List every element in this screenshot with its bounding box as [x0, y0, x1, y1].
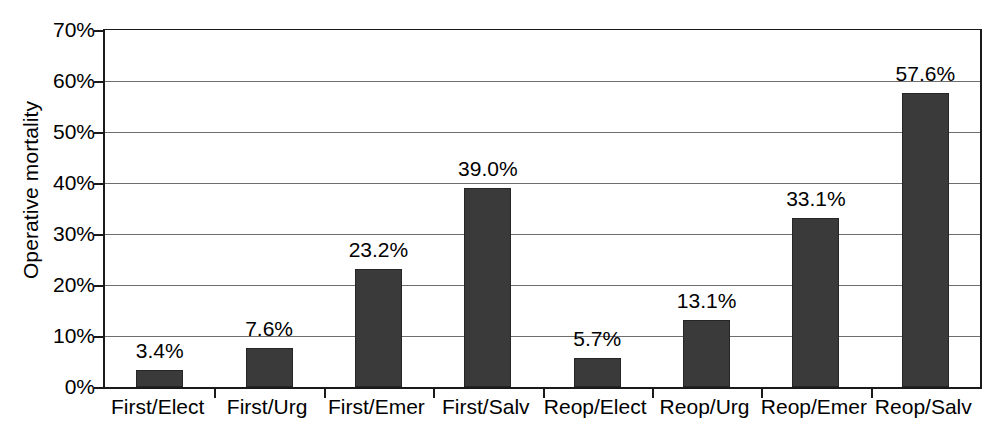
bar — [246, 348, 293, 387]
x-axis-tick-labels: First/ElectFirst/UrgFirst/EmerFirst/Salv… — [103, 396, 978, 436]
chart-figure: Operative mortality 0%10%20%30%40%50%60%… — [0, 0, 997, 442]
bar-value-label: 39.0% — [428, 158, 548, 179]
bar-value-label: 57.6% — [865, 63, 985, 84]
gridline — [105, 183, 980, 184]
y-tick-mark — [94, 336, 103, 338]
x-tick-label: Reop/Salv — [853, 396, 993, 417]
gridline — [105, 285, 980, 286]
bar — [355, 269, 402, 387]
y-tick-label: 50% — [0, 121, 103, 142]
bar — [464, 188, 511, 387]
bar-value-label: 13.1% — [647, 290, 767, 311]
gridline — [105, 132, 980, 133]
plot-area: 3.4%7.6%23.2%39.0%5.7%13.1%33.1%57.6% — [103, 29, 982, 389]
gridline — [105, 234, 980, 235]
y-tick-mark — [94, 81, 103, 83]
bar — [792, 218, 839, 387]
gridline — [105, 81, 980, 82]
y-tick-label: 20% — [0, 274, 103, 295]
bar-value-label: 7.6% — [209, 318, 329, 339]
y-axis-tick-labels: 0%10%20%30%40%50%60%70% — [0, 0, 103, 442]
y-tick-mark — [94, 183, 103, 185]
y-tick-mark — [94, 30, 103, 32]
y-tick-label: 70% — [0, 19, 103, 40]
y-tick-label: 30% — [0, 223, 103, 244]
y-tick-mark — [94, 387, 103, 389]
y-tick-label: 10% — [0, 325, 103, 346]
bar-value-label: 33.1% — [756, 188, 876, 209]
bar — [683, 320, 730, 387]
y-tick-mark — [94, 285, 103, 287]
y-tick-label: 0% — [0, 376, 103, 397]
y-tick-mark — [94, 234, 103, 236]
y-tick-label: 60% — [0, 70, 103, 91]
bar — [902, 93, 949, 387]
bar — [136, 370, 183, 387]
bar-value-label: 5.7% — [537, 328, 657, 349]
y-tick-mark — [94, 132, 103, 134]
bar — [574, 358, 621, 387]
y-tick-label: 40% — [0, 172, 103, 193]
bar-value-label: 3.4% — [100, 340, 220, 361]
bar-value-label: 23.2% — [318, 239, 438, 260]
